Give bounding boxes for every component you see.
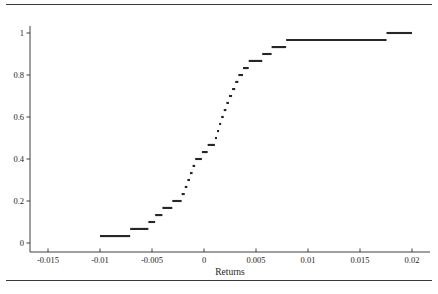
x-tick-label: 0 — [202, 255, 206, 265]
x-tick-label: 0.015 — [350, 255, 369, 265]
top-horizontal-rule — [6, 4, 432, 5]
y-tick-label: 0.4 — [13, 154, 24, 164]
x-tick-label: -0.015 — [37, 255, 59, 265]
x-tick-label: 0.005 — [246, 255, 265, 265]
x-tick-labels: -0.015-0.01-0.00500.0050.010.0150.02 — [37, 255, 419, 265]
figure-page: 00.20.40.60.81 -0.015-0.01-0.00500.0050.… — [0, 0, 438, 294]
x-tick-label: -0.005 — [141, 255, 163, 265]
axes — [30, 26, 430, 252]
y-tick-label: 0 — [20, 238, 24, 248]
plot-canvas: 00.20.40.60.81 -0.015-0.01-0.00500.0050.… — [0, 8, 438, 280]
y-tick-label: 1 — [20, 28, 24, 38]
y-tick-label: 0.6 — [13, 112, 24, 122]
x-tick-label: 0.01 — [301, 255, 316, 265]
x-tick-label: -0.01 — [91, 255, 109, 265]
x-tick-label: 0.02 — [405, 255, 420, 265]
y-tick-label: 0.8 — [13, 70, 24, 80]
y-tick-labels: 00.20.40.60.81 — [13, 28, 24, 248]
bottom-horizontal-rule — [6, 280, 432, 281]
tick-marks — [27, 33, 413, 252]
ecdf-step-series — [100, 33, 412, 236]
x-axis-title: Returns — [215, 267, 245, 277]
y-tick-label: 0.2 — [13, 196, 24, 206]
ecdf-chart: 00.20.40.60.81 -0.015-0.01-0.00500.0050.… — [0, 8, 438, 280]
